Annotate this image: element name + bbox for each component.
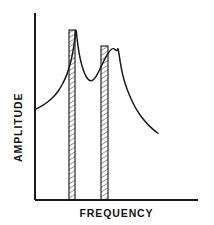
amplitude-response-curve: [35, 30, 158, 133]
resonance-band-2: [101, 46, 108, 200]
x-axis-label: FREQUENCY: [35, 208, 198, 219]
hatched-bands-group: [69, 30, 108, 200]
axes-group: [35, 13, 198, 200]
amplitude-frequency-figure: AMPLITUDE FREQUENCY: [0, 0, 214, 225]
plot-canvas: [0, 0, 214, 225]
y-axis-label: AMPLITUDE: [13, 79, 24, 175]
